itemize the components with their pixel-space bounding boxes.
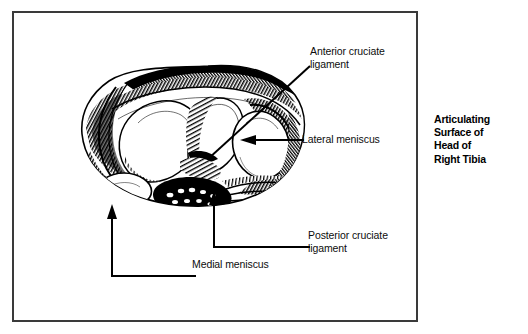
tibial-plateau-drawing [82, 65, 310, 276]
anatomy-figure: Anterior cruciate ligament Lateral menis… [0, 0, 528, 334]
label-lateral-meniscus: Lateral meniscus [302, 133, 380, 146]
label-posterior-cruciate-ligament: Posterior cruciate ligament [308, 229, 388, 254]
label-anterior-cruciate-ligament: Anterior cruciate ligament [310, 45, 385, 70]
leader-medial-meniscus [107, 204, 196, 276]
label-medial-meniscus: Medial meniscus [192, 258, 269, 271]
figure-caption: Articulating Surface of Head of Right Ti… [434, 113, 526, 166]
